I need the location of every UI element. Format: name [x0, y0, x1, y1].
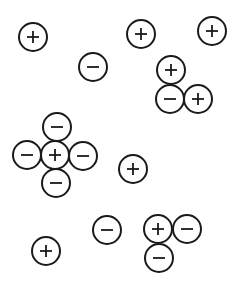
- positive-charge: [198, 17, 226, 45]
- charge-diagram: [0, 0, 235, 288]
- negative-charge: [156, 85, 184, 113]
- positive-charge: [119, 155, 147, 183]
- positive-charge: [144, 215, 172, 243]
- positive-charge: [184, 85, 212, 113]
- positive-charge: [157, 56, 185, 84]
- negative-charge: [79, 53, 107, 81]
- positive-charge: [41, 141, 69, 169]
- negative-charge: [173, 215, 201, 243]
- negative-charge: [13, 141, 41, 169]
- negative-charge: [93, 216, 121, 244]
- negative-charge: [145, 244, 173, 272]
- negative-charge: [69, 142, 97, 170]
- positive-charge: [19, 23, 47, 51]
- positive-charge: [32, 237, 60, 265]
- negative-charge: [42, 169, 70, 197]
- positive-charge: [127, 20, 155, 48]
- negative-charge: [43, 113, 71, 141]
